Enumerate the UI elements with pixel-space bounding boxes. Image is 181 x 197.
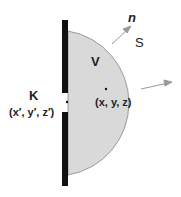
point-xyz-dot <box>105 88 107 90</box>
diagram-canvas <box>0 0 181 197</box>
point-k-dot <box>66 101 68 103</box>
wall-lower <box>62 112 68 186</box>
label-xyz-coords: (x, y, z) <box>95 96 131 108</box>
label-surface: S <box>135 35 144 50</box>
normal-arrow-icon <box>112 26 131 44</box>
label-k: K <box>29 88 38 103</box>
wall-upper <box>62 20 68 93</box>
outward-arrow-icon <box>141 80 172 89</box>
label-normal: n <box>128 10 136 25</box>
label-volume: V <box>91 54 100 69</box>
label-k-coords: (x′, y′, z′) <box>9 106 54 118</box>
